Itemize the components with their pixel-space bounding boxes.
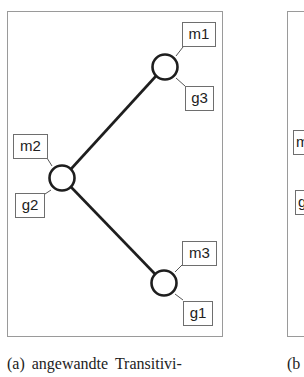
label-m2: m2 [13, 134, 48, 159]
caption-b: (b [287, 355, 300, 373]
panel-a-frame [7, 11, 223, 337]
label-m3: m3 [182, 241, 217, 266]
label-m1: m1 [182, 22, 216, 47]
label-g2: g2 [15, 193, 45, 218]
caption-a: (a) angewandte Transitivi- [7, 355, 182, 373]
label-g3: g3 [185, 86, 214, 111]
panel-b-frame [287, 11, 304, 337]
label-b-g: g [295, 190, 304, 215]
label-g1: g1 [183, 301, 213, 326]
label-b-m: m [293, 130, 304, 155]
